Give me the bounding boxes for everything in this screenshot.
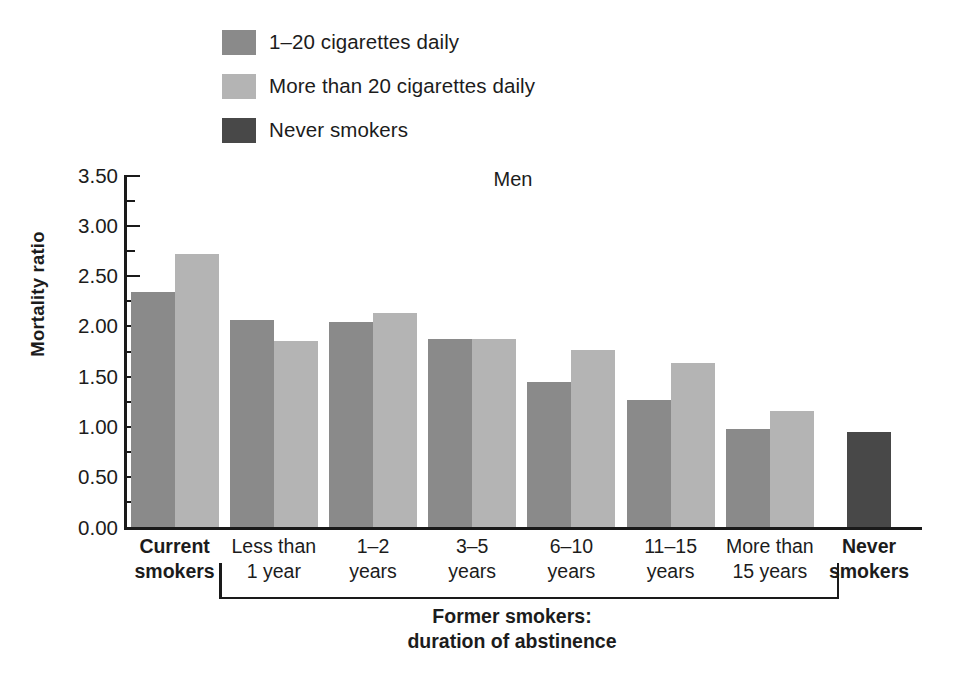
bar [131,292,175,527]
bar [175,254,219,528]
bar [770,411,814,528]
bar [527,382,571,528]
bar [671,363,715,528]
bar [373,313,417,527]
bar [472,339,516,527]
bar [274,341,318,527]
bar [726,429,770,528]
bar [627,400,671,528]
bar [230,320,274,527]
bar [571,350,615,527]
bracket-caption: Former smokers: duration of abstinence [0,604,976,654]
bracket-right-tip [837,563,840,599]
bracket-horizontal-line [219,597,839,600]
bracket-caption-line-2: duration of abstinence [407,629,616,654]
bar [329,322,373,527]
mortality-ratio-bar-chart: 1–20 cigarettes dailyMore than 20 cigare… [0,0,976,674]
bar [428,339,472,527]
former-smokers-bracket [219,563,839,599]
bracket-left-tip [219,563,222,599]
bar [847,432,891,528]
bracket-caption-line-1: Former smokers: [407,604,616,629]
x-axis-category-label-line: Never [810,534,928,559]
